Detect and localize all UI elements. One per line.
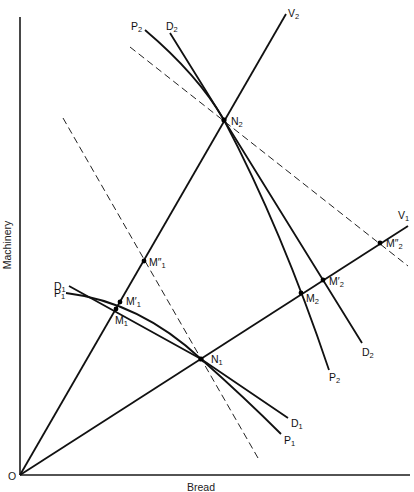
label-p2-bottom: P2 (329, 371, 340, 385)
curve-d1 (69, 286, 288, 418)
label-p1-right: P1 (284, 434, 295, 448)
label-d1-right: D1 (291, 417, 303, 431)
ray-v2 (20, 14, 286, 475)
x-axis-label: Bread (187, 481, 215, 492)
label-m1-prime: M′1 (126, 295, 141, 309)
label-p2-top: P2 (131, 20, 142, 34)
label-v1: V1 (398, 209, 409, 223)
trade-diagram: V2 V1 P2 D2 D2 P2 D1 P1 D1 P1 N2 N1 M″1 … (0, 0, 414, 492)
label-n1: N1 (211, 353, 223, 367)
dashed-line-upper (130, 47, 408, 266)
curve-p2 (145, 30, 329, 370)
point-m2-prime (321, 278, 326, 283)
curve-d2 (170, 33, 362, 343)
dashed-line-lower (63, 118, 258, 458)
point-n1 (198, 356, 203, 361)
point-m1 (114, 307, 119, 312)
point-m2 (299, 291, 304, 296)
label-m2-prime: M′2 (329, 275, 344, 289)
label-m1-double-prime: M″1 (149, 256, 166, 270)
label-d2-bottom: D2 (362, 346, 374, 360)
label-m2-double-prime: M″2 (386, 237, 403, 251)
point-m2-double-prime (378, 241, 383, 246)
label-d2-top: D2 (166, 20, 178, 34)
label-n2: N2 (231, 115, 243, 129)
origin-label: O (8, 470, 16, 482)
y-axis-label: Machinery (1, 220, 13, 269)
label-m1: M1 (115, 314, 128, 328)
label-m2: M2 (306, 292, 319, 306)
point-n2 (221, 117, 226, 122)
ray-v1 (20, 226, 408, 475)
curve-p1 (66, 293, 281, 434)
label-v2: V2 (288, 7, 299, 21)
point-m1-prime (118, 300, 123, 305)
point-m1-double-prime (142, 259, 147, 264)
